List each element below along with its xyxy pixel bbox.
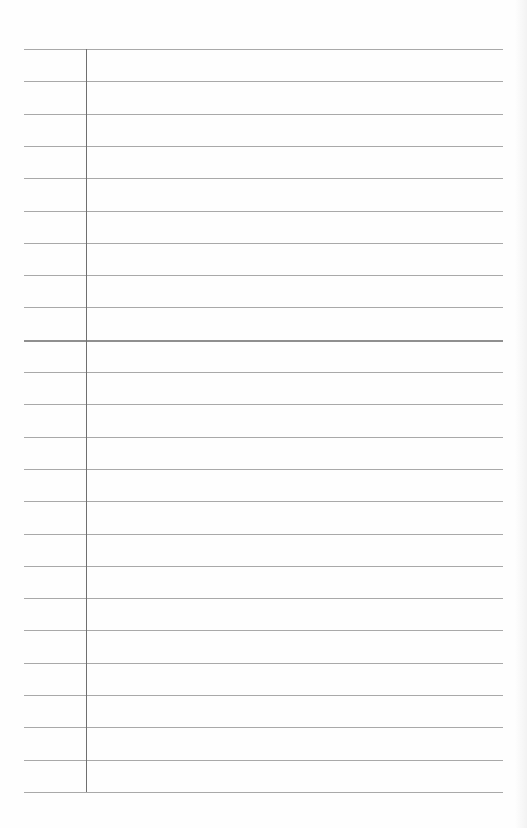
ruled-line — [24, 760, 503, 761]
ruled-line — [24, 243, 503, 244]
ruled-line — [24, 307, 503, 308]
ruled-line — [24, 211, 503, 212]
ruled-line — [24, 114, 503, 115]
ruled-line — [24, 630, 503, 631]
margin-line — [86, 49, 87, 792]
page-edge-shadow — [515, 0, 527, 828]
ruled-line — [24, 404, 503, 405]
ruled-line — [24, 663, 503, 664]
ruled-line — [24, 534, 503, 535]
ruled-line — [24, 275, 503, 276]
ruled-line — [24, 340, 503, 342]
notebook-page — [0, 0, 527, 828]
ruled-line — [24, 178, 503, 179]
ruled-line — [24, 437, 503, 438]
ruled-line — [24, 598, 503, 599]
ruled-line — [24, 81, 503, 82]
ruled-line — [24, 727, 503, 728]
ruled-line — [24, 49, 503, 50]
ruled-line — [24, 695, 503, 696]
ruled-line — [24, 372, 503, 373]
ruled-line — [24, 146, 503, 147]
ruled-line — [24, 501, 503, 502]
ruled-line — [24, 469, 503, 470]
ruled-line — [24, 792, 503, 793]
ruled-line — [24, 566, 503, 567]
